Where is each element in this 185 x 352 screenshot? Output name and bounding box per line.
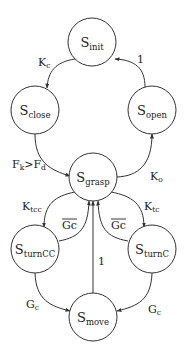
- svg-text:Gc: Gc: [111, 219, 126, 232]
- label-gc-bar-left: Gc: [62, 219, 77, 232]
- state-init: Sinit: [68, 18, 116, 66]
- edge-init-to-close: [47, 59, 75, 88]
- state-turncc: SturnCC: [11, 225, 59, 273]
- state-open: Sopen: [128, 86, 176, 134]
- edge-turnc-to-move: [117, 273, 152, 311]
- state-grasp: Sgrasp: [69, 153, 117, 201]
- label-move-grasp: 1: [98, 255, 105, 268]
- state-diagram: Sinit Sclose Sopen Sgrasp SturnCC SturnC…: [0, 0, 185, 352]
- edge-grasp-to-open: [117, 134, 152, 177]
- label-open-init: 1: [137, 53, 144, 66]
- label-gc-right: Gc: [148, 303, 161, 317]
- label-fk-gt-fd: Fk>Fd: [12, 158, 46, 172]
- label-kc: Kc: [38, 56, 50, 70]
- state-close: Sclose: [11, 86, 59, 134]
- label-gc-bar-right: Gc: [111, 219, 126, 232]
- svg-text:Gc: Gc: [62, 219, 77, 232]
- edge-turncc-to-move: [35, 273, 70, 311]
- label-ko: Ko: [150, 170, 163, 184]
- state-turnc: SturnC: [128, 225, 176, 273]
- label-ktcc: Ktcc: [22, 200, 42, 214]
- state-move: Smove: [69, 293, 117, 341]
- label-gc-left: Gc: [26, 298, 39, 312]
- label-ktc: Ktc: [144, 200, 159, 214]
